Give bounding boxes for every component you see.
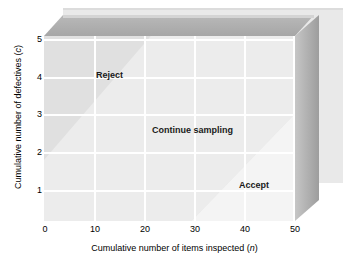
x-axis-tick-20: 20 <box>140 224 150 234</box>
chart-back-wall-edge <box>63 8 343 10</box>
region-label-continue-sampling: Continue sampling <box>152 125 233 135</box>
y-axis-tick-3: 3 <box>32 109 42 119</box>
chart-right-face <box>295 15 319 221</box>
y-axis-tick-1: 1 <box>32 185 42 195</box>
gridline-vertical-50 <box>293 36 295 221</box>
gridline-horizontal-2 <box>44 152 295 154</box>
gridline-horizontal-1 <box>44 190 295 192</box>
x-axis-tick-40: 40 <box>240 224 250 234</box>
gridline-vertical-20 <box>144 36 146 221</box>
x-axis-tick-30: 30 <box>190 224 200 234</box>
gridline-vertical-40 <box>244 36 246 221</box>
x-axis-title-close: ) <box>255 243 258 253</box>
y-axis-title-close: ) <box>13 45 23 48</box>
x-axis-title: Cumulative number of items inspected (n) <box>0 243 349 253</box>
x-axis-tick-0: 0 <box>42 224 47 234</box>
y-axis-title: Cumulative number of defectives (c) <box>13 17 23 217</box>
gridline-horizontal-4 <box>44 77 295 79</box>
gridline-horizontal-3 <box>44 114 295 116</box>
x-axis-title-text: Cumulative number of items inspected ( <box>91 243 250 253</box>
y-axis-tick-4: 4 <box>32 72 42 82</box>
y-axis-title-text: Cumulative number of defectives ( <box>13 52 23 189</box>
y-axis-tick-5: 5 <box>32 34 42 44</box>
chart-top-face <box>44 15 314 36</box>
gridline-vertical-10 <box>94 36 96 221</box>
y-axis-tick-2: 2 <box>32 147 42 157</box>
y-axis-title-symbol: c <box>13 48 23 53</box>
x-axis-tick-10: 10 <box>90 224 100 234</box>
sequential-sampling-chart: Reject Continue sampling Accept 5 4 3 2 … <box>0 0 349 273</box>
chart-top-face-highlight <box>44 15 314 18</box>
region-label-reject: Reject <box>96 70 123 80</box>
region-label-accept: Accept <box>239 180 269 190</box>
x-axis-tick-50: 50 <box>290 224 300 234</box>
gridline-horizontal-5 <box>44 39 295 41</box>
